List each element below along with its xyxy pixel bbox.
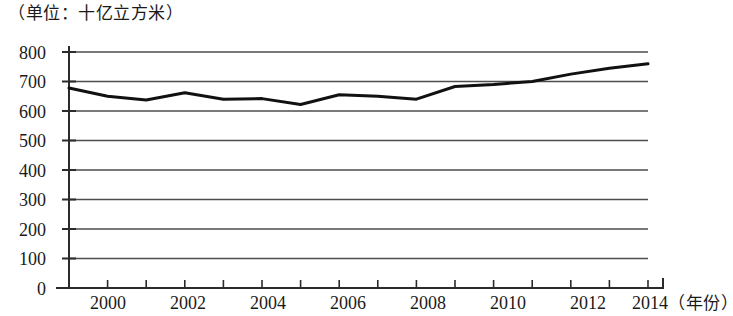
y-tick-label-700: 700 bbox=[0, 73, 46, 91]
y-tick-label-300: 300 bbox=[0, 191, 46, 209]
y-tick-label-0: 0 bbox=[0, 280, 46, 298]
line-chart-figure: （单位：十亿立方米） 800 700 600 500 400 300 200 1… bbox=[0, 0, 733, 316]
data-line-series-0 bbox=[69, 64, 648, 105]
plot-area: 800 700 600 500 400 300 200 100 0 2000 2… bbox=[0, 0, 733, 316]
x-tick-label-2000: 2000 bbox=[78, 294, 138, 312]
x-axis-title: （年份） bbox=[668, 295, 733, 313]
x-tick-label-2006: 2006 bbox=[318, 294, 378, 312]
y-tick-label-500: 500 bbox=[0, 132, 46, 150]
x-tick-label-2012: 2012 bbox=[558, 294, 618, 312]
y-tick-label-400: 400 bbox=[0, 162, 46, 180]
y-tick-label-600: 600 bbox=[0, 103, 46, 121]
chart-svg bbox=[0, 0, 733, 316]
y-tick-label-100: 100 bbox=[0, 250, 46, 268]
x-tick-label-2010: 2010 bbox=[478, 294, 538, 312]
axes-group bbox=[56, 46, 664, 288]
x-tick-label-2008: 2008 bbox=[398, 294, 458, 312]
y-tick-label-800: 800 bbox=[0, 44, 46, 62]
y-tick-label-200: 200 bbox=[0, 221, 46, 239]
gridlines-group bbox=[68, 52, 648, 259]
x-tick-label-2004: 2004 bbox=[238, 294, 298, 312]
x-ticks-group bbox=[69, 280, 648, 288]
x-tick-label-2002: 2002 bbox=[158, 294, 218, 312]
